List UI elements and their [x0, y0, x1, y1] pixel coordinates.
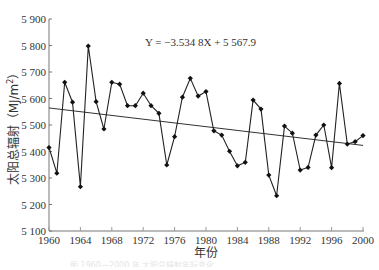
x-tick-label: 1988 — [258, 234, 281, 246]
y-tick-label: 5 400 — [21, 146, 46, 158]
x-tick-label: 2000 — [352, 234, 375, 246]
x-tick-label: 1980 — [195, 234, 218, 246]
data-point-marker — [227, 149, 232, 154]
y-axis-title-main: 太阳总辐射 — [6, 125, 21, 185]
y-tick-label: 5 700 — [21, 66, 46, 78]
data-point-marker — [305, 165, 310, 170]
x-tick-label: 1968 — [101, 234, 124, 246]
data-point-marker — [46, 145, 51, 150]
y-tick-label: 5 800 — [21, 40, 46, 52]
data-point-marker — [211, 128, 216, 133]
data-point-marker — [345, 141, 350, 146]
y-tick-label: 5 500 — [21, 119, 46, 131]
data-point-marker — [203, 89, 208, 94]
y-tick-label: 5 900 — [21, 13, 46, 25]
x-tick-label: 1964 — [69, 234, 92, 246]
y-axis-title-unit: （MJ/m — [7, 84, 21, 126]
data-point-marker — [164, 162, 169, 167]
data-point-marker — [196, 94, 201, 99]
svg-text:太阳总辐射（MJ/m2）: 太阳总辐射（MJ/m2） — [6, 67, 21, 186]
data-point-marker — [188, 76, 193, 81]
data-point-marker — [337, 81, 342, 86]
data-point-marker — [62, 80, 67, 85]
regression-line — [49, 108, 363, 145]
data-point-marker — [117, 82, 122, 87]
data-point-marker — [180, 95, 185, 100]
data-point-marker — [54, 171, 59, 176]
y-axis-title-close: ） — [7, 67, 21, 79]
data-point-marker — [86, 43, 91, 48]
y-tick-label: 5 300 — [21, 172, 46, 184]
data-point-marker — [70, 100, 75, 105]
data-point-marker — [94, 99, 99, 104]
data-point-marker — [125, 103, 130, 108]
line-chart: 5 1005 2005 3005 4005 5005 6005 7005 800… — [0, 0, 379, 270]
x-axis-title: 年份 — [194, 246, 218, 260]
data-point-marker — [109, 80, 114, 85]
data-point-marker — [219, 132, 224, 137]
data-point-marker — [78, 184, 83, 189]
data-point-marker — [274, 193, 279, 198]
y-tick-label: 5 600 — [21, 93, 46, 105]
x-tick-label: 1972 — [132, 234, 154, 246]
data-point-marker — [235, 163, 240, 168]
x-tick-label: 1960 — [38, 234, 61, 246]
regression-equation: Y = −3.534 8X + 5 567.9 — [145, 36, 257, 48]
x-tick-label: 1984 — [226, 234, 249, 246]
y-axis-title: 太阳总辐射（MJ/m2） — [6, 67, 21, 186]
x-tick-label: 1976 — [164, 234, 187, 246]
data-point-marker — [298, 167, 303, 172]
y-tick-label: 5 200 — [21, 199, 46, 211]
data-point-marker — [266, 172, 271, 177]
figure-caption: 图 1960—2000 年 太阳总辐射年际变化 — [70, 259, 360, 267]
data-point-marker — [329, 165, 334, 170]
x-tick-label: 1992 — [289, 234, 311, 246]
data-point-marker — [101, 126, 106, 131]
trend-line — [49, 108, 363, 145]
data-point-marker — [172, 134, 177, 139]
data-series — [46, 43, 365, 198]
series-line — [49, 46, 363, 196]
data-point-marker — [141, 91, 146, 96]
x-tick-label: 1996 — [321, 234, 344, 246]
data-point-marker — [243, 160, 248, 165]
